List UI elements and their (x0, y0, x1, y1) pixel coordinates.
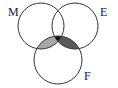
label-e: E (100, 5, 107, 19)
label-f: F (84, 69, 91, 83)
circle-f (34, 36, 82, 84)
circle-m (18, 3, 64, 49)
label-m: M (8, 5, 19, 19)
circle-e (52, 3, 98, 49)
venn-diagram: M E F (0, 0, 118, 88)
